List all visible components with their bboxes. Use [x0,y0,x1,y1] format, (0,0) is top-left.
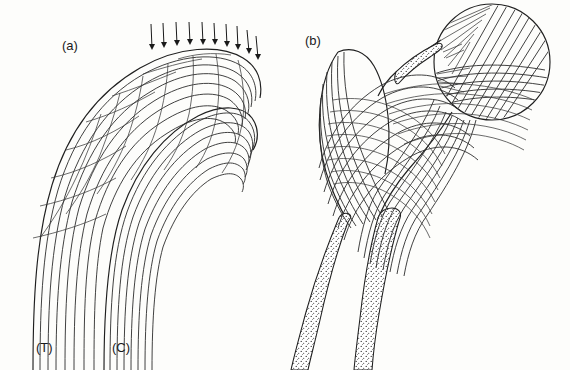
tension-label: (T) [36,340,53,355]
panel-a: (a) (T) (C) [33,22,261,370]
compression-trajectories [110,113,255,370]
load-arrow [174,22,180,46]
beam-outer-boundary [33,49,261,370]
tension-trajectories [40,57,256,370]
load-arrow [235,26,241,50]
intertrochanteric-cortex [395,43,442,84]
load-arrow [255,36,261,60]
load-arrow [212,23,218,45]
load-arrow [187,22,193,45]
load-arrow [246,30,252,54]
panel-b: (b) [291,2,552,370]
compression-label: (C) [112,340,130,355]
load-arrow [161,23,167,48]
trabecular-figure: (a) (T) (C) [0,0,570,370]
load-arrow [224,24,230,47]
load-arrow [149,24,155,50]
lateral-cortex [291,213,351,370]
load-arrow [200,22,206,45]
panel-a-label: (a) [62,38,78,53]
panel-b-label: (b) [305,33,321,48]
load-arrows-group [149,22,261,60]
